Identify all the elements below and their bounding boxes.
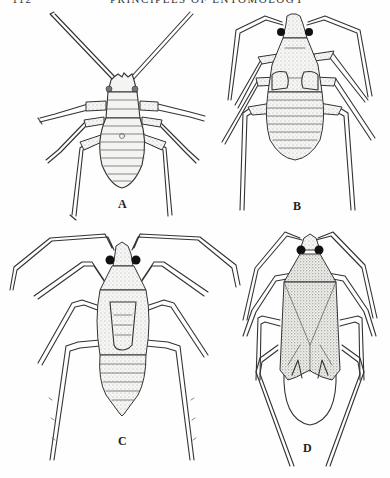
figure-d-adult <box>243 232 377 466</box>
figure-b-nymph <box>222 14 375 210</box>
insect-plate-illustration: A <box>0 0 390 478</box>
figure-c-nymph <box>10 234 240 460</box>
figure-a-nymph <box>38 12 205 220</box>
figure-label-b: B <box>293 199 301 213</box>
figure-label-d: D <box>303 441 312 455</box>
book-page: 112 PRINCIPLES OF ENTOMOLOGY <box>0 0 390 478</box>
figure-label-c: C <box>118 434 127 448</box>
figure-label-a: A <box>118 197 127 211</box>
